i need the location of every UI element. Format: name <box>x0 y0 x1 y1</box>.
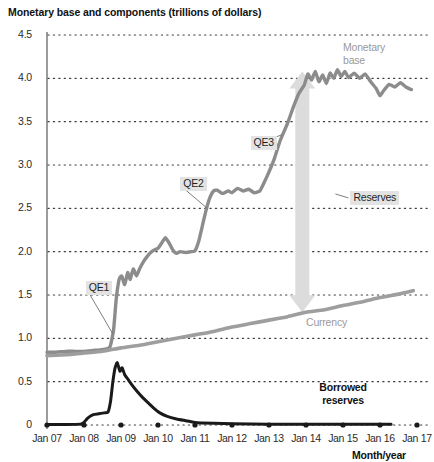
chart-plot-area <box>0 0 434 462</box>
x-tick-jan-11: Jan 11 <box>181 432 210 444</box>
annotation-qe2: QE2 <box>180 177 206 191</box>
series-label-monetary-base: Monetary base <box>343 41 385 67</box>
x-tick-jan-12: Jan 12 <box>217 432 247 444</box>
borrowed-reserves-label-line2: reserves <box>322 394 364 406</box>
annotation-qe3: QE3 <box>251 136 277 150</box>
x-tick-jan-10: Jan 10 <box>143 432 173 444</box>
y-tick-0: 0 <box>6 418 32 430</box>
y-tick-3-5: 3.5 <box>6 115 32 127</box>
x-tick-jan-13: Jan 13 <box>254 432 284 444</box>
series-currency <box>47 291 413 356</box>
y-tick-2-5: 2.5 <box>6 201 32 213</box>
gridlines <box>48 35 430 425</box>
chart-container: Monetary base and components (trillions … <box>0 0 434 462</box>
x-tick-jan-09: Jan 09 <box>106 432 136 444</box>
borrowed-reserves-label-line1: Borrowed <box>319 381 366 393</box>
y-tick-4-0: 4.0 <box>6 71 32 83</box>
x-axis-caption: Month/year <box>352 449 406 461</box>
data-series-layer <box>47 70 413 425</box>
x-tick-jan-16: Jan 16 <box>365 432 395 444</box>
annotation-reserves: Reserves <box>350 191 399 205</box>
series-monetary-base <box>47 70 411 353</box>
annotation-leader-lines <box>88 135 349 334</box>
x-tick-jan-14: Jan 14 <box>291 432 321 444</box>
annotation-qe1: QE1 <box>86 281 112 295</box>
x-tick-jan-15: Jan 15 <box>328 432 358 444</box>
x-tick-jan-17: Jan 17 <box>402 432 432 444</box>
y-tick-1-5: 1.5 <box>6 288 32 300</box>
x-tick-jan-08: Jan 08 <box>69 432 99 444</box>
y-tick-1-0: 1.0 <box>6 331 32 343</box>
monetary-base-label-line1: Monetary <box>343 41 385 53</box>
x-tick-jan-07: Jan 07 <box>32 432 62 444</box>
series-label-currency: Currency <box>306 316 347 329</box>
monetary-base-label-line2: base <box>343 54 365 66</box>
y-tick-2-0: 2.0 <box>6 245 32 257</box>
y-tick-4-5: 4.5 <box>6 28 32 40</box>
y-tick-0-5: 0.5 <box>6 375 32 387</box>
y-tick-3-0: 3.0 <box>6 158 32 170</box>
series-label-borrowed-reserves: Borrowed reserves <box>319 381 366 407</box>
